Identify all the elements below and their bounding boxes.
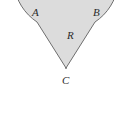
shaded-disk-region [13,0,118,68]
sector-diagram-svg [0,0,129,130]
label-point-a: A [32,7,39,18]
label-center-c: C [62,75,69,86]
figure-container: A B R C [0,0,129,130]
center-point-marker [65,67,67,69]
label-point-b: B [93,7,100,18]
label-radius-r: R [67,30,74,41]
